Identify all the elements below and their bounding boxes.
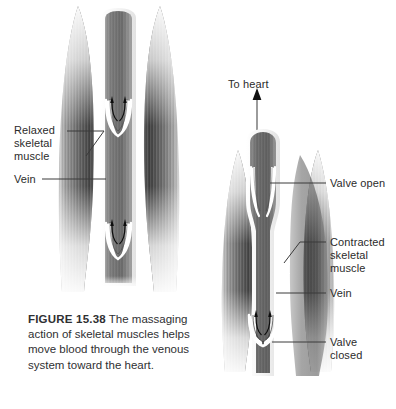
right-panel-art (218, 88, 340, 380)
relaxed-muscle-left-belly (55, 0, 100, 300)
label-vein-right: Vein (330, 287, 352, 300)
label-valve-closed: Valve closed (330, 336, 362, 362)
label-vein-left: Vein (14, 173, 36, 186)
label-valve-open: Valve open (330, 177, 385, 190)
label-relaxed-skeletal-muscle: Relaxed skeletal muscle (14, 124, 55, 163)
to-heart-arrow (253, 88, 262, 130)
label-to-heart: To heart (228, 78, 269, 91)
label-contracted-skeletal-muscle: Contracted skeletal muscle (330, 236, 385, 275)
figure-caption: FIGURE 15.38 The massaging action of ske… (28, 312, 198, 373)
relaxed-muscle-right-belly (140, 0, 185, 300)
figure-container: Relaxed skeletal muscle Vein To heart Va… (0, 0, 396, 409)
figure-number: FIGURE 15.38 (28, 313, 106, 325)
left-panel-art (42, 0, 185, 300)
vein-relaxed (101, 8, 136, 292)
